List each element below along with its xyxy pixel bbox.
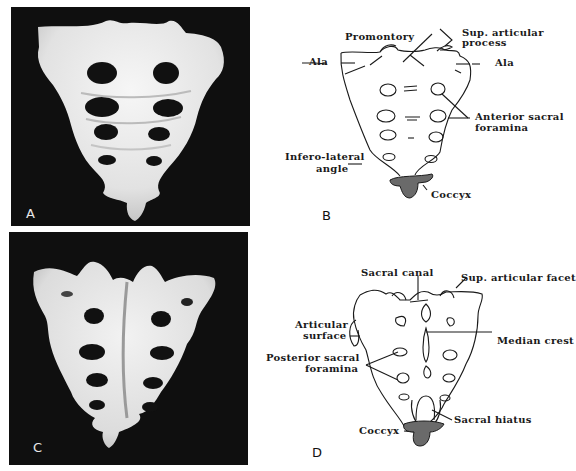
label-median-crest: Median crest xyxy=(497,336,574,346)
panel-letter-d: D xyxy=(312,446,322,459)
label-coccyx-d: Coccyx xyxy=(359,426,399,436)
label-sup-articular-facet: Sup. articular facet xyxy=(461,273,576,283)
label-articular-surface-line1: Articular xyxy=(295,320,348,330)
label-sacral-hiatus: Sacral hiatus xyxy=(454,415,532,425)
label-posterior-sacral-foramina-line1: Posterior sacral xyxy=(266,353,360,363)
label-posterior-sacral-foramina-line2: foramina xyxy=(305,364,358,374)
label-sacral-canal: Sacral canal xyxy=(361,268,434,278)
label-articular-surface-line2: surface xyxy=(303,331,347,341)
